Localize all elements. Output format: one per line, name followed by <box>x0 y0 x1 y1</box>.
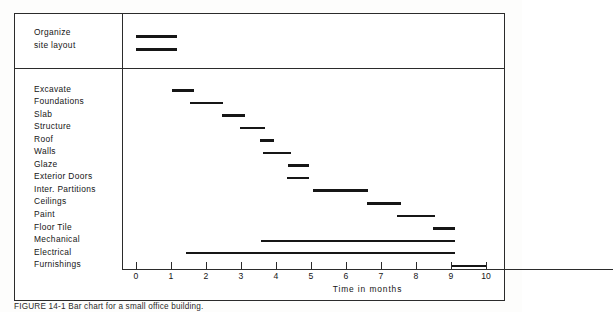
task-bar <box>190 102 223 105</box>
task-label: Inter. Partitions <box>34 185 96 194</box>
x-axis-tick <box>381 262 382 269</box>
x-axis-tick-label: 5 <box>309 271 314 281</box>
x-axis-line <box>122 269 613 270</box>
x-axis-tick-label: 0 <box>134 271 139 281</box>
task-bar <box>260 139 274 142</box>
task-label: Structure <box>34 122 71 131</box>
task-label: Electrical <box>34 248 71 257</box>
task-label: Exterior Doors <box>34 172 92 181</box>
task-bar <box>240 127 265 130</box>
x-axis-tick-label: 7 <box>379 271 384 281</box>
x-axis-tick-label: 4 <box>274 271 279 281</box>
task-label: Glaze <box>34 160 58 169</box>
task-label: Ceilings <box>34 197 67 206</box>
x-axis-tick-label: 3 <box>239 271 244 281</box>
x-axis-tick <box>346 262 347 269</box>
header-bar <box>136 35 177 38</box>
x-axis-tick <box>241 262 242 269</box>
plot-area: 012345678910 Time in months <box>122 14 504 300</box>
x-axis-tick <box>276 262 277 269</box>
task-bar <box>186 252 455 254</box>
task-bar <box>263 152 291 155</box>
task-bar <box>261 240 455 242</box>
x-axis-tick-label: 6 <box>344 271 349 281</box>
x-axis-tick <box>206 262 207 269</box>
task-bar <box>313 189 368 192</box>
task-label: Paint <box>34 210 55 219</box>
task-label: Excavate <box>34 85 71 94</box>
task-bar <box>397 215 435 218</box>
figure-caption: FIGURE 14-1 Bar chart for a small office… <box>14 302 204 311</box>
gantt-chart-figure: Organize site layout ExcavateFoundations… <box>14 13 505 301</box>
x-axis-tick <box>171 262 172 269</box>
x-axis-tick-label: 8 <box>414 271 419 281</box>
task-bar <box>222 114 245 117</box>
task-bar <box>452 265 487 268</box>
task-bar <box>172 89 194 92</box>
task-bar <box>288 164 309 167</box>
x-axis-tick <box>311 262 312 269</box>
task-label: Floor Tile <box>34 223 72 232</box>
task-label: Roof <box>34 135 53 144</box>
x-axis-tick <box>416 262 417 269</box>
x-axis-title: Time in months <box>122 284 613 294</box>
task-label: Walls <box>34 147 56 156</box>
x-axis-tick <box>136 262 137 269</box>
task-label: Furnishings <box>34 260 81 269</box>
x-axis-tick-label: 9 <box>449 271 454 281</box>
task-label: Foundations <box>34 97 84 106</box>
task-bar <box>287 177 309 180</box>
header-label-line-1: Organize <box>34 28 71 37</box>
x-axis-tick-label: 10 <box>481 271 491 281</box>
header-bar <box>136 48 177 51</box>
x-axis-tick <box>451 262 452 269</box>
x-axis-tick-label: 1 <box>169 271 174 281</box>
task-bar <box>433 227 455 230</box>
header-label-line-2: site layout <box>34 41 76 50</box>
task-label: Mechanical <box>34 235 80 244</box>
x-axis-tick-label: 2 <box>204 271 209 281</box>
task-bar <box>367 202 401 205</box>
task-label: Slab <box>34 110 52 119</box>
x-axis-tick <box>486 262 487 269</box>
